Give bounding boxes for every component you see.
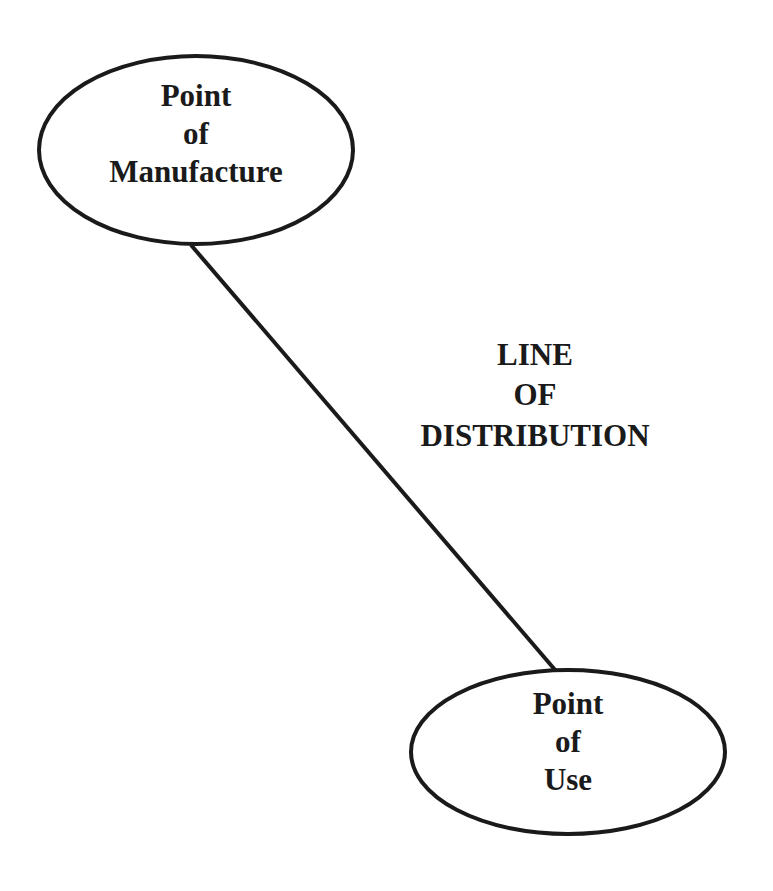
node-label-line: Manufacture: [46, 153, 346, 191]
edge-label-line: DISTRIBUTION: [390, 416, 680, 456]
node-label-line: of: [46, 115, 346, 153]
node-point-of-manufacture-label: Point of Manufacture: [46, 77, 346, 190]
edge-label-line: OF: [390, 375, 680, 415]
node-label-line: Point: [46, 77, 346, 115]
node-label-line: Point: [418, 685, 718, 723]
node-label-line: of: [418, 723, 718, 761]
edge-label-line: LINE: [390, 335, 680, 375]
line-of-distribution-connector: [191, 245, 556, 671]
node-point-of-use-label: Point of Use: [418, 685, 718, 798]
node-label-line: Use: [418, 761, 718, 799]
edge-label-line-of-distribution: LINE OF DISTRIBUTION: [390, 335, 680, 456]
